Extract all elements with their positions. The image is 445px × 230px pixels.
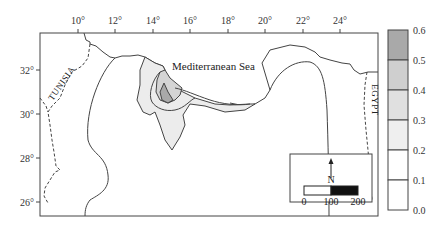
- lon-tick-label: 16°: [183, 15, 197, 26]
- legend-swatch-0.1-0.2: [388, 150, 408, 180]
- lon-tick-label: 12°: [108, 15, 122, 26]
- legend-label: 0.0: [413, 205, 426, 216]
- scale-bar-white: [304, 186, 331, 195]
- legend-swatch-0.4-0.5: [388, 60, 408, 90]
- longitude-tick-labels: 10° 12° 14° 16° 18° 20° 22° 24°: [71, 15, 347, 26]
- scale-inset: N 0 100 200: [290, 154, 372, 207]
- country-label-egypt: EGYPT: [370, 84, 380, 116]
- lon-tick-label: 18°: [221, 15, 235, 26]
- lat-tick-label: 32°: [20, 65, 34, 76]
- lon-tick-label: 14°: [146, 15, 160, 26]
- legend-swatch-0.0-0.1: [388, 180, 408, 210]
- latitude-axis: [36, 70, 40, 202]
- legend-label: 0.1: [413, 175, 426, 186]
- latitude-tick-labels: 32° 30° 28° 26°: [20, 65, 34, 208]
- legend-swatch-0.2-0.3: [388, 120, 408, 150]
- legend-label: 0.4: [413, 85, 426, 96]
- lon-tick-label: 10°: [71, 15, 85, 26]
- lat-tick-label: 30°: [20, 109, 34, 120]
- lon-tick-label: 22°: [296, 15, 310, 26]
- legend-label: 0.6: [413, 25, 426, 36]
- lat-tick-label: 28°: [20, 153, 34, 164]
- lat-tick-label: 26°: [20, 197, 34, 208]
- north-label: N: [327, 174, 334, 185]
- longitude-axis: [78, 29, 340, 33]
- legend-colorbar: [388, 30, 408, 210]
- scale-bar-black: [331, 186, 358, 195]
- legend-label: 0.5: [413, 55, 426, 66]
- map-figure: 10° 12° 14° 16° 18° 20° 22° 24° 32° 30° …: [0, 0, 445, 230]
- legend-label: 0.2: [413, 145, 426, 156]
- lon-tick-label: 24°: [333, 15, 347, 26]
- scale-label-0: 0: [302, 196, 307, 207]
- legend-swatch-0.5-0.6: [388, 30, 408, 60]
- scale-label-100: 100: [324, 196, 339, 207]
- lon-tick-label: 20°: [258, 15, 272, 26]
- sea-label: Mediterranean Sea: [172, 60, 255, 72]
- legend-labels: 0.6 0.5 0.4 0.3 0.2 0.1 0.0: [413, 25, 426, 216]
- legend-label: 0.3: [413, 115, 426, 126]
- scale-label-200: 200: [351, 196, 366, 207]
- legend-swatch-0.3-0.4: [388, 90, 408, 120]
